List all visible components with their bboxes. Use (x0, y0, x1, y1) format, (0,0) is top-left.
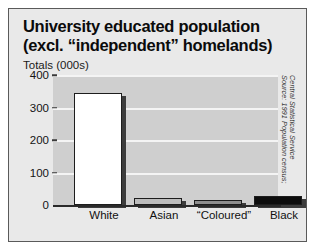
chart-screenshot: University educated population (excl. “i… (0, 0, 317, 252)
x-axis-line (53, 205, 281, 207)
y-tick-label-100: 100 (30, 167, 49, 179)
chart-card: University educated population (excl. “i… (8, 8, 307, 242)
bar-white[interactable] (74, 93, 122, 205)
y-axis-ticks: 400 300 200 100 0 (13, 75, 49, 205)
source-note-line-2: Central Statistical Service (280, 75, 296, 205)
y-tick-label-0: 0 (43, 199, 49, 211)
chart-title-line-1: University educated population (23, 17, 298, 36)
bars-layer (53, 75, 278, 205)
chart-title-line-2: (excl. “independent” homelands) (23, 36, 298, 55)
y-tick-label-200: 200 (30, 134, 49, 146)
y-tick-label-300: 300 (30, 102, 49, 114)
chart-title: University educated population (excl. “i… (23, 17, 298, 55)
bar-asian[interactable] (134, 198, 182, 205)
y-tick-label-400: 400 (30, 69, 49, 81)
x-tick-label-black: Black (234, 209, 317, 221)
bar-coloured[interactable] (194, 200, 242, 205)
bar-black[interactable] (254, 196, 302, 205)
